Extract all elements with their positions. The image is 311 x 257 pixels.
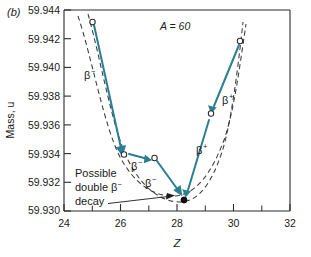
y-tick-label-59938: 59.938 bbox=[28, 90, 60, 102]
note-line-1: Possible bbox=[75, 167, 117, 179]
data-point-z30 bbox=[237, 38, 242, 43]
panel-label: (b) bbox=[7, 6, 21, 18]
beta-symbol: β bbox=[196, 144, 202, 156]
note-line-2: double β− bbox=[75, 180, 122, 193]
beta-plus-superscript: + bbox=[229, 92, 234, 101]
beta-minus-superscript: − bbox=[91, 67, 96, 76]
x-tick-label-26: 26 bbox=[115, 217, 127, 229]
beta-symbol: β bbox=[131, 160, 137, 172]
y-tick-label-59944: 59.944 bbox=[28, 4, 60, 16]
mass-parabola-figure: (b) 59.944 59.942 59.940 59.938 59.936 5… bbox=[0, 0, 311, 257]
note-beta-superscript: − bbox=[117, 180, 122, 189]
y-tick-label-59934: 59.934 bbox=[28, 148, 60, 160]
beta-minus-superscript: − bbox=[152, 175, 157, 184]
chart-canvas: (b) 59.944 59.942 59.940 59.938 59.936 5… bbox=[0, 0, 311, 257]
x-axis-title: Z bbox=[172, 237, 181, 249]
annotation-mass-number: A = 60 bbox=[159, 20, 190, 32]
data-point-z25 bbox=[90, 19, 95, 24]
y-tick-label-59932: 59.932 bbox=[28, 176, 60, 188]
x-tick-label-32: 32 bbox=[284, 217, 296, 229]
data-point-z26 bbox=[121, 152, 126, 157]
note-line-2-text: double bbox=[75, 181, 111, 193]
beta-symbol: β bbox=[222, 94, 228, 106]
y-axis-title: Mass, u bbox=[4, 101, 16, 138]
y-tick-label-59940: 59.940 bbox=[28, 61, 60, 73]
beta-symbol: β bbox=[84, 69, 90, 81]
data-point-z29 bbox=[208, 111, 213, 116]
x-tick-label-30: 30 bbox=[228, 217, 240, 229]
data-point-z27 bbox=[152, 155, 157, 160]
beta-symbol: β bbox=[145, 177, 151, 189]
note-line-3: decay bbox=[75, 195, 105, 207]
data-point-z28-stable bbox=[181, 197, 187, 203]
beta-minus-superscript: − bbox=[138, 158, 143, 167]
y-tick-label-59930: 59.930 bbox=[28, 204, 60, 216]
y-tick-label-59936: 59.936 bbox=[28, 119, 60, 131]
x-tick-label-28: 28 bbox=[171, 217, 183, 229]
beta-plus-superscript: + bbox=[203, 142, 208, 151]
x-tick-label-24: 24 bbox=[58, 217, 70, 229]
y-tick-label-59942: 59.942 bbox=[28, 33, 60, 45]
